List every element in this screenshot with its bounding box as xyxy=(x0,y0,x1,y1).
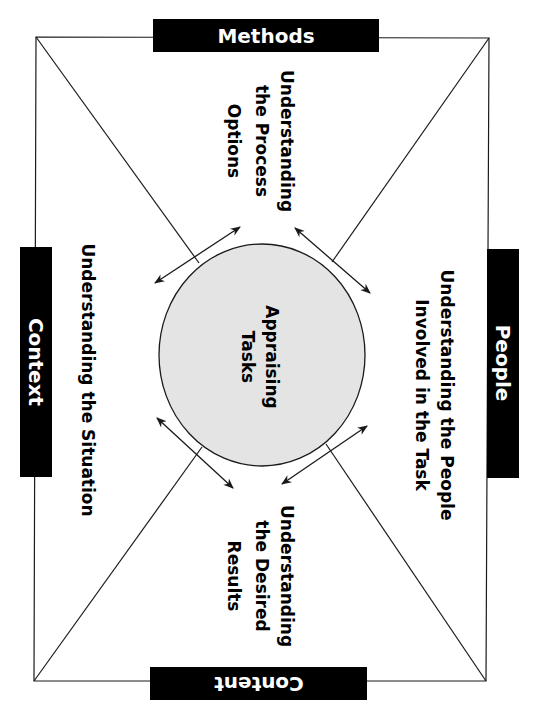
quadrant-top-line3: Options xyxy=(224,104,244,178)
quadrant-top-line1: Understanding xyxy=(277,70,297,212)
center-text-line1: Appraising xyxy=(262,305,282,408)
diagonal-top-left xyxy=(36,37,199,263)
quadrant-bottom-text: Understanding the Desired Results xyxy=(224,505,297,647)
quadrant-bottom-line1: Understanding xyxy=(277,505,297,647)
quadrant-bottom-line3: Results xyxy=(224,541,244,612)
quadrant-right-text: Understanding the People Involved in the… xyxy=(412,270,457,521)
label-content-text: Content xyxy=(214,672,304,696)
label-people-text: People xyxy=(491,325,515,402)
diagonal-bottom-left xyxy=(34,447,202,681)
label-content: Content xyxy=(150,667,367,700)
quadrant-top-line2: the Process xyxy=(252,85,272,197)
label-people: People xyxy=(487,249,519,478)
center-circle xyxy=(159,244,365,466)
center-text-line2: Tasks xyxy=(238,331,258,383)
quadrant-left-text: Understanding the Situation xyxy=(78,243,98,516)
quadrant-top-text: Understanding the Process Options xyxy=(224,70,297,212)
quadrant-right-line2: Involved in the Task xyxy=(412,299,432,491)
task-appraisal-diagram: Methods Content Context People Appraisin… xyxy=(0,0,534,722)
diagonal-bottom-right xyxy=(326,444,486,681)
label-methods-text: Methods xyxy=(217,24,314,48)
quadrant-bottom-line2: the Desired xyxy=(252,520,272,631)
label-context-text: Context xyxy=(24,318,48,407)
quadrant-right-line1: Understanding the People xyxy=(437,270,457,521)
diagonal-top-right xyxy=(332,38,489,262)
label-context: Context xyxy=(20,247,52,477)
label-methods: Methods xyxy=(153,19,379,52)
quadrant-left-line1: Understanding the Situation xyxy=(78,243,98,516)
